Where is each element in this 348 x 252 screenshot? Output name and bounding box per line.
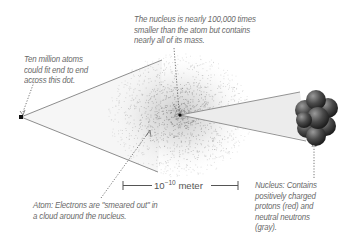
dot-annotation: Ten million atoms could fit end to end a… [24, 54, 88, 86]
scale-bar-label: 10−10 meter [154, 179, 203, 191]
nucleus-size-annotation: The nucleus is nearly 100,000 times smal… [134, 14, 256, 46]
nucleus-annotation: Nucleus: Contains positively charged pro… [255, 180, 317, 233]
atom-diagram: Ten million atoms could fit end to end a… [0, 0, 348, 252]
atom-annotation: Atom: Electrons are "smeared out" in a c… [33, 200, 158, 221]
nucleus-dot [178, 113, 181, 116]
reference-dot [19, 115, 23, 119]
